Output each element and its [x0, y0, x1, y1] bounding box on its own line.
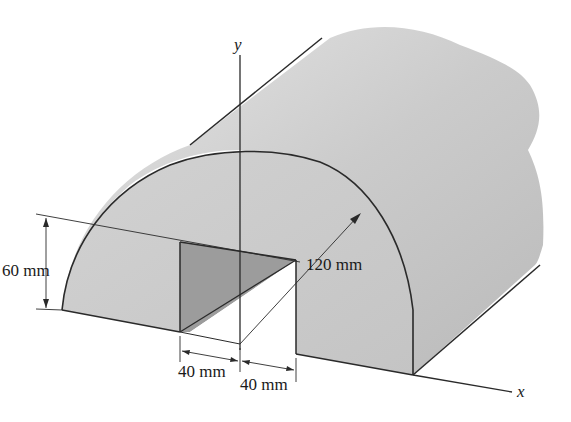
y-axis-label: y [232, 35, 242, 54]
height-dimension-label: 60 mm [2, 261, 50, 280]
width-dim-left [182, 351, 238, 361]
width-right-arrow-b-icon [286, 366, 294, 371]
x-axis-label: x [516, 382, 525, 401]
height-ext-bottom [36, 309, 62, 310]
height-arrow-bottom-icon [43, 299, 49, 308]
x-axis [413, 375, 512, 392]
width-dim-right [242, 361, 294, 370]
height-arrow-top-icon [43, 218, 49, 227]
right-width-dimension-label: 40 mm [240, 375, 288, 394]
left-width-dimension-label: 40 mm [178, 362, 226, 381]
diagram-canvas: y x 60 mm 120 mm 40 mm 40 mm [0, 0, 571, 422]
radius-dimension-label: 120 mm [306, 255, 362, 274]
half-cylinder-diagram: y x 60 mm 120 mm 40 mm 40 mm [0, 0, 571, 422]
width-left-arrow-a-icon [182, 350, 190, 355]
width-right-arrow-a-icon [242, 360, 250, 365]
width-left-arrow-b-icon [230, 357, 238, 362]
